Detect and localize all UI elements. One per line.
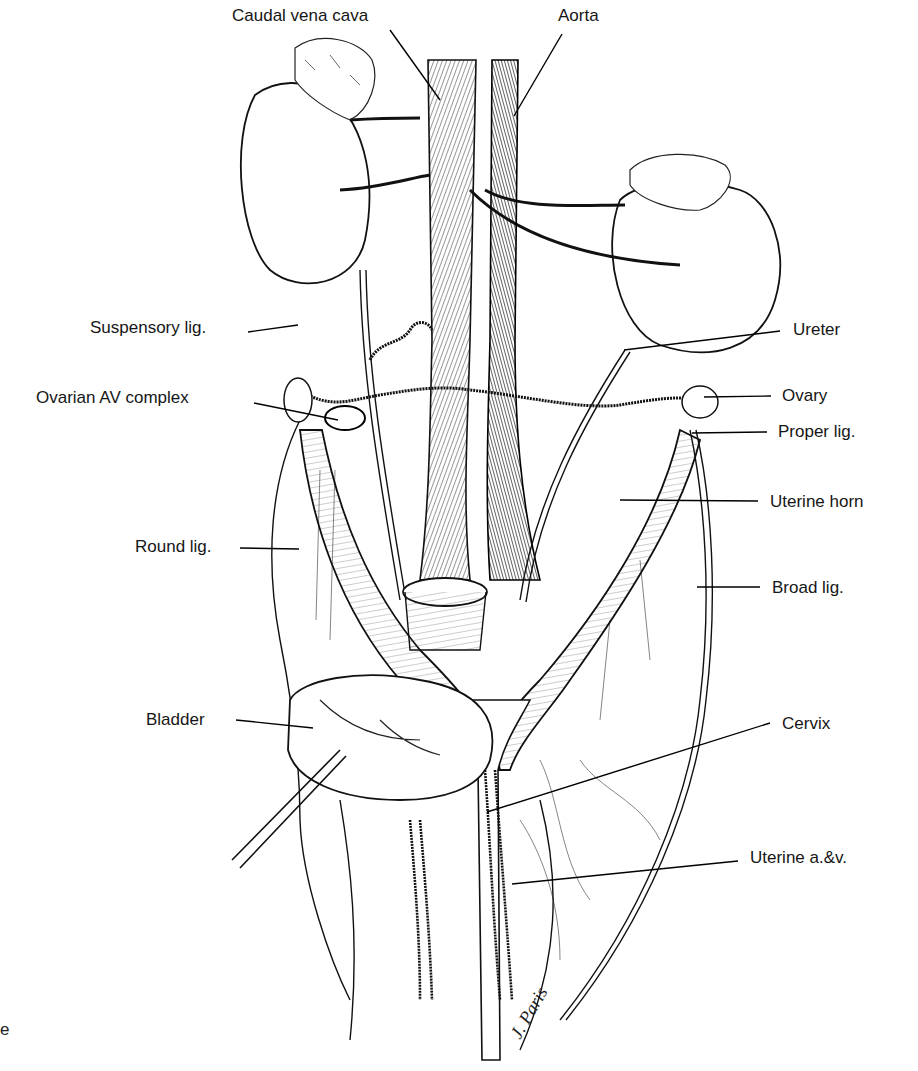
label-uterine-horn: Uterine horn	[770, 492, 864, 512]
bladder	[232, 675, 492, 868]
label-broad-lig: Broad lig.	[772, 578, 844, 598]
illustration: J. Paris	[0, 0, 918, 1071]
label-ovarian-av-complex: Ovarian AV complex	[36, 388, 189, 408]
kidney-right	[612, 154, 780, 352]
aorta	[487, 60, 540, 580]
artist-signature: J. Paris	[506, 984, 551, 1042]
anatomical-diagram: J. Paris Caudal vena cava Aorta Suspenso…	[0, 0, 918, 1071]
label-round-lig: Round lig.	[135, 537, 212, 557]
label-caudal-vena-cava: Caudal vena cava	[232, 6, 368, 26]
label-aorta: Aorta	[558, 6, 599, 26]
label-ureter: Ureter	[793, 320, 840, 340]
kidney-left	[241, 39, 375, 284]
label-uterine-av: Uterine a.&v.	[750, 848, 847, 868]
label-suspensory-lig: Suspensory lig.	[90, 318, 206, 338]
vessel-cross-section	[403, 578, 487, 650]
label-ovary: Ovary	[782, 386, 827, 406]
label-bladder: Bladder	[146, 710, 205, 730]
label-proper-lig: Proper lig.	[778, 422, 855, 442]
cropped-edge-text: e	[0, 1020, 9, 1040]
label-cervix: Cervix	[782, 714, 830, 734]
broad-ligament-right	[560, 430, 712, 1020]
caudal-vena-cava	[420, 60, 476, 580]
